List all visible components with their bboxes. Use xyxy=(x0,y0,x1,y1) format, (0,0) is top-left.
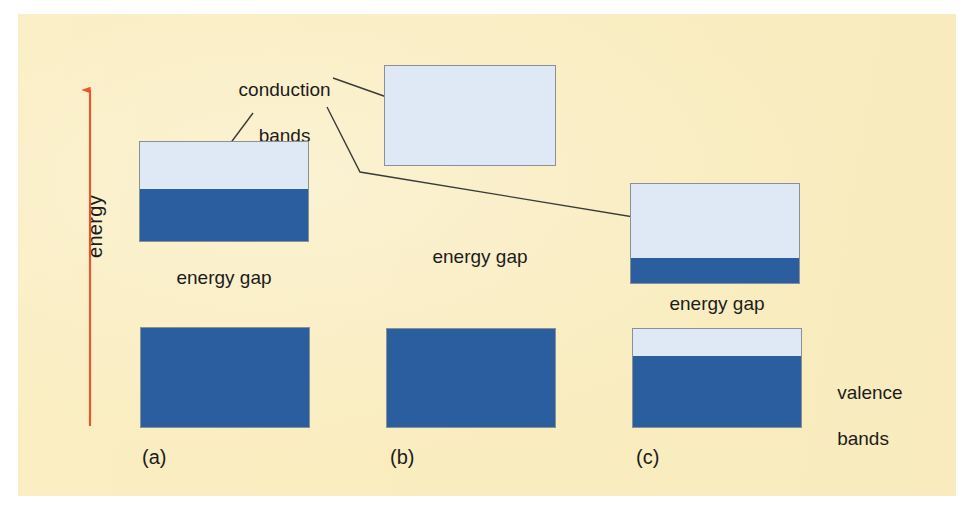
energy-axis-label: energy xyxy=(84,172,107,282)
panel-c-energy-gap-label: energy gap xyxy=(632,292,802,315)
panel-a-valence-band xyxy=(140,327,310,428)
panel-c-valence-empty-region xyxy=(633,329,801,356)
panel-c-conduction-band xyxy=(630,183,800,284)
panel-b-letter: (b) xyxy=(390,446,414,468)
panel-b-valence-band xyxy=(386,328,556,428)
panel-b-conduction-band xyxy=(384,65,556,166)
valence-bands-label: valence bands xyxy=(816,358,946,473)
conduction-bands-label-line1: conduction xyxy=(239,79,331,100)
figure-screenshot: energy conduction bands energy gap (a) e… xyxy=(0,0,980,523)
panel-b-energy-gap-label: energy gap xyxy=(400,245,560,268)
panel-a-conduction-filled-region xyxy=(140,189,308,241)
valence-bands-label-line1: valence xyxy=(837,382,903,403)
panel-c-conduction-filled-region xyxy=(631,258,799,283)
panel-a-conduction-empty-region xyxy=(140,142,308,189)
valence-bands-label-line2: bands xyxy=(837,428,889,449)
panel-c-letter: (c) xyxy=(636,446,659,468)
panel-c-valence-filled-region xyxy=(633,356,801,427)
panel-c-conduction-empty-region xyxy=(631,184,799,258)
panel-a-conduction-band xyxy=(139,141,309,242)
panel-a-letter: (a) xyxy=(142,446,166,468)
panel-c-valence-band xyxy=(632,328,802,428)
panel-a-energy-gap-label: energy gap xyxy=(139,266,309,289)
